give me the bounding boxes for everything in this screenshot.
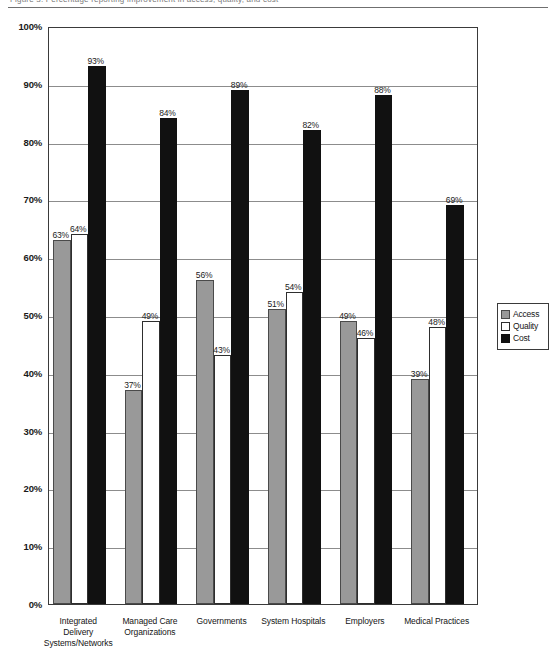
bar-value-label: 89% <box>225 80 253 90</box>
bar-access-2 <box>125 390 143 604</box>
gridline <box>49 259 477 260</box>
bar-quality-5 <box>357 338 375 604</box>
bar-value-label: 69% <box>440 195 468 205</box>
legend-swatch-icon <box>501 310 510 319</box>
bar-value-label: 46% <box>351 328 379 338</box>
bar-access-1 <box>53 240 71 604</box>
bar-value-label: 56% <box>190 270 218 280</box>
x-axis-category-label: Medical Practices <box>392 616 482 627</box>
chart-legend: AccessQualityCost <box>497 303 549 350</box>
y-axis-tick-label: 100% <box>0 21 42 32</box>
bar-cost-2 <box>160 118 178 604</box>
bar-value-label: 93% <box>82 56 110 66</box>
y-axis-tick-label: 80% <box>0 137 42 148</box>
y-axis-tick-label: 90% <box>0 79 42 90</box>
legend-item-label: Quality <box>513 321 538 331</box>
bar-access-5 <box>340 321 358 604</box>
bar-access-4 <box>268 309 286 604</box>
bar-value-label: 64% <box>65 224 93 234</box>
header-divider <box>8 7 548 8</box>
clipped-header-text: Figure 3. Percentage reporting improveme… <box>10 0 278 4</box>
legend-item-label: Cost <box>513 333 530 343</box>
x-axis-category-line: Medical Practices <box>392 616 482 627</box>
legend-item-quality[interactable]: Quality <box>501 321 545 331</box>
gridline <box>49 144 477 145</box>
x-axis-category-line: Systems/Networks <box>33 638 123 649</box>
bar-access-6 <box>411 379 429 604</box>
y-axis-tick-label: 10% <box>0 541 42 552</box>
legend-item-cost[interactable]: Cost <box>501 333 545 343</box>
y-axis-tick-label: 50% <box>0 310 42 321</box>
bar-quality-4 <box>286 292 304 604</box>
y-axis-tick-label: 20% <box>0 483 42 494</box>
bar-value-label: 54% <box>280 282 308 292</box>
legend-item-access[interactable]: Access <box>501 309 545 319</box>
y-axis-tick-label: 40% <box>0 368 42 379</box>
legend-swatch-icon <box>501 322 510 331</box>
bar-value-label: 39% <box>405 369 433 379</box>
clipped-header-strip: Figure 3. Percentage reporting improveme… <box>0 0 554 7</box>
bar-value-label: 49% <box>136 311 164 321</box>
gridline <box>49 317 477 318</box>
gridline <box>49 201 477 202</box>
bar-cost-5 <box>375 95 393 604</box>
bar-value-label: 82% <box>297 120 325 130</box>
bar-value-label: 84% <box>154 108 182 118</box>
bar-value-label: 37% <box>119 380 147 390</box>
bar-value-label: 48% <box>423 317 451 327</box>
x-axis-category-line: Organizations <box>105 627 195 638</box>
bar-cost-1 <box>88 66 106 604</box>
bar-value-label: 49% <box>334 311 362 321</box>
bar-value-label: 43% <box>208 345 236 355</box>
bar-quality-1 <box>71 234 89 604</box>
y-axis-tick-label: 30% <box>0 426 42 437</box>
bar-value-label: 88% <box>369 85 397 95</box>
bar-cost-6 <box>446 205 464 604</box>
plot-area <box>48 27 478 605</box>
bar-quality-3 <box>214 355 232 604</box>
legend-item-label: Access <box>513 309 539 319</box>
bar-quality-2 <box>142 321 160 604</box>
y-axis-tick-label: 60% <box>0 252 42 263</box>
bar-cost-4 <box>303 130 321 604</box>
y-axis-tick-label: 0% <box>0 599 42 610</box>
legend-swatch-icon <box>501 334 510 343</box>
gridline <box>49 86 477 87</box>
bar-access-3 <box>196 280 214 604</box>
bar-value-label: 51% <box>262 299 290 309</box>
y-axis-tick-label: 70% <box>0 194 42 205</box>
